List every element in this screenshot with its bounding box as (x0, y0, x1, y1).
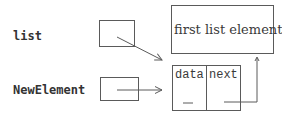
next-arrowhead (255, 57, 259, 61)
data-field-label: data (175, 68, 204, 82)
new-element-variable-label: NewElement (13, 83, 85, 97)
list-variable-label: list (13, 29, 42, 43)
next-field-label: next (209, 68, 238, 82)
new-element-pointer-box (100, 77, 139, 101)
first-list-element-text: first list element (174, 22, 271, 38)
linked-list-insert-diagram: list NewElement first list element data … (0, 0, 282, 117)
first-list-element-box: first list element (171, 5, 274, 54)
node-field-data: data (172, 65, 207, 111)
list-pointer-box (99, 20, 135, 47)
new-node-box: data next (172, 65, 241, 111)
